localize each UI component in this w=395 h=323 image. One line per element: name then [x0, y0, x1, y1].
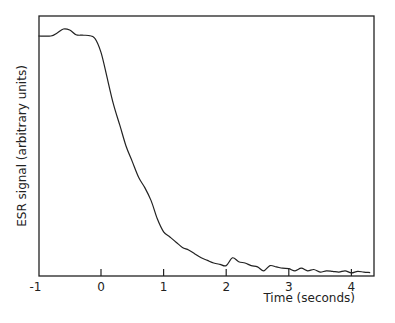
esr-signal-line: [38, 29, 370, 273]
esr-chart: -101234 Time (seconds) ESR signal (arbit…: [0, 0, 395, 323]
x-tick-label: 0: [97, 280, 105, 294]
x-tick-label: 1: [160, 280, 168, 294]
x-tick-label: -1: [29, 280, 41, 294]
plot-frame: [39, 16, 374, 276]
y-axis-label: ESR signal (arbitrary units): [15, 65, 29, 227]
x-axis-label: Time (seconds): [262, 291, 355, 305]
x-tick-label: 2: [222, 280, 230, 294]
